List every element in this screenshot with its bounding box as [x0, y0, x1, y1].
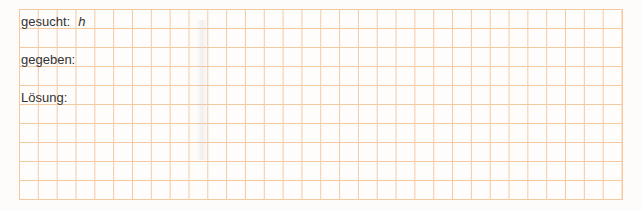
- sought-row: gesucht:h: [21, 14, 85, 29]
- sought-label: gesucht:: [21, 14, 70, 29]
- given-label: gegeben:: [21, 52, 75, 67]
- given-row: gegeben:: [21, 52, 75, 67]
- graph-paper-grid: [19, 9, 623, 200]
- sought-variable: h: [78, 14, 85, 29]
- solution-label: Lösung:: [21, 90, 67, 105]
- solution-row: Lösung:: [21, 90, 67, 105]
- paper-fold-mark: [196, 20, 208, 160]
